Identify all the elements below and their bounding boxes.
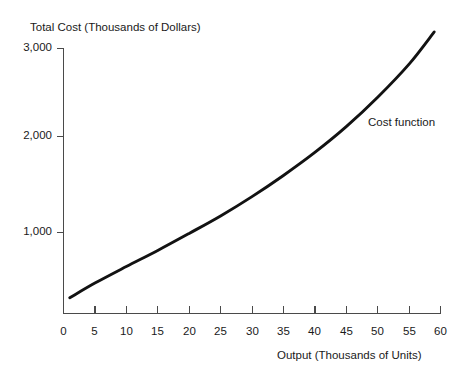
y-tick-label-1000: 1,000 <box>0 226 52 238</box>
x-tick-label-40: 40 <box>300 326 329 338</box>
cost-function-annotation: Cost function <box>368 117 435 129</box>
x-tick-label-55: 55 <box>395 326 424 338</box>
chart-plot-area <box>0 0 474 378</box>
x-tick-label-5: 5 <box>80 326 109 338</box>
x-tick-label-25: 25 <box>206 326 235 338</box>
y-tick-label-2000: 2,000 <box>0 130 52 142</box>
x-tick-label-45: 45 <box>332 326 361 338</box>
x-tick-label-50: 50 <box>363 326 392 338</box>
x-tick-label-20: 20 <box>175 326 204 338</box>
cost-function-curve <box>70 32 434 298</box>
x-axis-title: Output (Thousands of Units) <box>277 350 421 362</box>
y-tick-label-3000: 3,000 <box>0 42 52 54</box>
y-axis-title: Total Cost (Thousands of Dollars) <box>30 22 201 34</box>
x-tick-label-10: 10 <box>112 326 141 338</box>
x-tick-label-0: 0 <box>49 326 78 338</box>
cost-function-chart: Total Cost (Thousands of Dollars) 3,000 … <box>0 0 474 378</box>
x-tick-label-15: 15 <box>143 326 172 338</box>
x-tick-label-60: 60 <box>426 326 455 338</box>
x-tick-label-30: 30 <box>238 326 267 338</box>
x-tick-label-35: 35 <box>269 326 298 338</box>
